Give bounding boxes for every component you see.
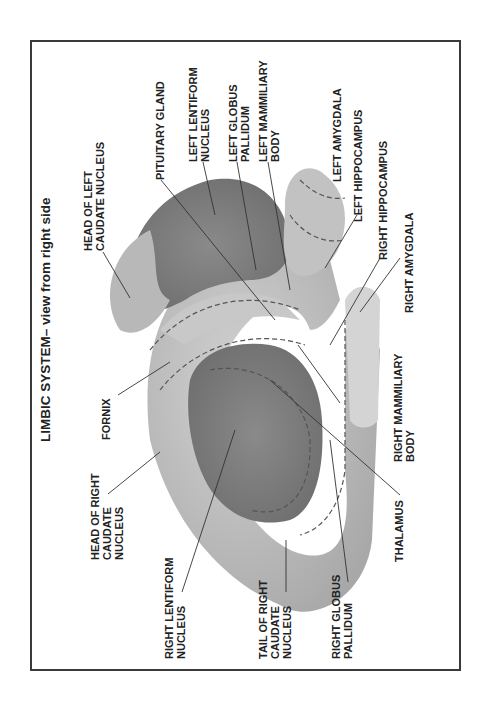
label-pituitary-gland: PITUITARY GLAND xyxy=(154,81,166,180)
left-hippocampus-shape xyxy=(284,168,345,276)
label-fornix: FORNIX xyxy=(100,398,112,440)
label-left-amygdala: LEFT AMYGDALA xyxy=(331,88,343,182)
label-head-right-caudate: HEAD OF RIGHT CAUDATE NUCLEUS xyxy=(89,473,125,560)
label-right-hippocampus: RIGHT HIPPOCAMPUS xyxy=(377,141,389,260)
label-left-hippocampus: LEFT HIPPOCAMPUS xyxy=(352,110,364,222)
label-left-lentiform: LEFT LENTIFORM NUCLEUS xyxy=(187,67,211,162)
label-thalamus: THALAMUS xyxy=(393,500,405,562)
label-tail-right-caudate: TAIL OF RIGHT CAUDATE NUCLEUS xyxy=(257,580,293,659)
label-right-globus-pallidum: RIGHT GLOBUS PALLIDUM xyxy=(330,575,354,659)
label-right-mammiliary: RIGHT MAMMILIARY BODY xyxy=(392,354,416,462)
label-left-mammiliary: LEFT MAMMILIARY BODY xyxy=(257,60,281,162)
label-right-amygdala: RIGHT AMYGDALA xyxy=(403,213,415,313)
figure-title: LIMBIC SYSTEM– view from right side xyxy=(38,197,53,442)
label-left-globus-pallidum: LEFT GLOBUS PALLIDUM xyxy=(227,84,251,162)
label-head-left-caudate: HEAD OF LEFT CAUDATE NUCLEUS xyxy=(82,142,106,251)
label-right-lentiform: RIGHT LENTIFORM NUCLEUS xyxy=(163,558,187,659)
